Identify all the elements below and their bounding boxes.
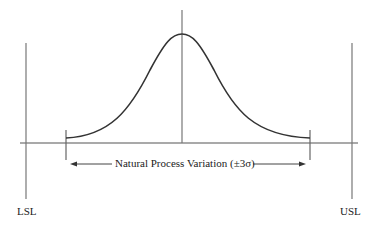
variation-label: Natural Process Variation (±3σ) [115,157,255,169]
normal-distribution-curve [66,34,310,138]
right-arrowhead-icon [299,162,306,167]
left-arrowhead-icon [70,162,77,167]
usl-label: USL [340,205,361,217]
lsl-label: LSL [17,205,37,217]
capability-diagram [0,0,374,229]
